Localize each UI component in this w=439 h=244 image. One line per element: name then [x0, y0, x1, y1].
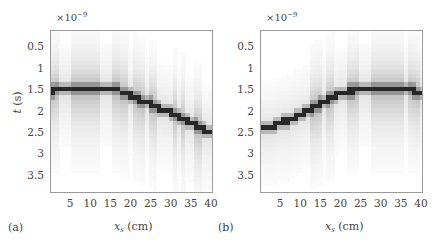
x-tick-label: 30	[371, 197, 391, 209]
y-tick-label: 3	[228, 147, 254, 159]
y-exponent: ×10−9	[56, 11, 87, 23]
x-tick-label: 5	[270, 197, 290, 209]
y-tick-label: 3.5	[18, 169, 44, 181]
x-tick-label: 20	[120, 197, 140, 209]
y-tick-label: 1	[18, 62, 44, 74]
y-tick-label: 3.5	[228, 169, 254, 181]
y-exponent: ×10−9	[266, 11, 297, 23]
x-tick-label: 30	[161, 197, 181, 209]
y-tick-label: 1.5	[228, 83, 254, 95]
panel-label: (a)	[8, 221, 23, 234]
y-tick-label: 2.5	[228, 126, 254, 138]
panel-b: ×10−9 0.511.522.533.5 510152025303540 (b…	[210, 0, 429, 244]
y-tick-label: 0.5	[18, 40, 44, 52]
panel-a: ×10−9 t (s) 0.511.522.533.5 510152025303…	[0, 0, 219, 244]
x-tick-label: 40	[411, 197, 431, 209]
x-tick-label: 20	[330, 197, 350, 209]
x-tick-label: 10	[290, 197, 310, 209]
x-tick-label: 25	[351, 197, 371, 209]
y-tick-label: 1	[228, 62, 254, 74]
x-tick-label: 15	[310, 197, 330, 209]
y-tick-label: 2.5	[18, 126, 44, 138]
panel-label: (b)	[218, 221, 234, 234]
y-tick-label: 2	[228, 105, 254, 117]
x-tick-label: 10	[80, 197, 100, 209]
y-tick-label: 0.5	[228, 40, 254, 52]
x-tick-label: 5	[60, 197, 80, 209]
y-tick-label: 1.5	[18, 83, 44, 95]
y-tick-label: 3	[18, 147, 44, 159]
x-axis-label: xs (cm)	[325, 220, 363, 234]
x-tick-label: 25	[141, 197, 161, 209]
x-tick-label: 15	[100, 197, 120, 209]
x-tick-label: 35	[181, 197, 201, 209]
heatmap-a	[50, 30, 213, 193]
x-tick-label: 35	[391, 197, 411, 209]
heatmap-b	[260, 30, 423, 193]
y-tick-label: 2	[18, 105, 44, 117]
x-axis-label: xs (cm)	[114, 220, 152, 234]
